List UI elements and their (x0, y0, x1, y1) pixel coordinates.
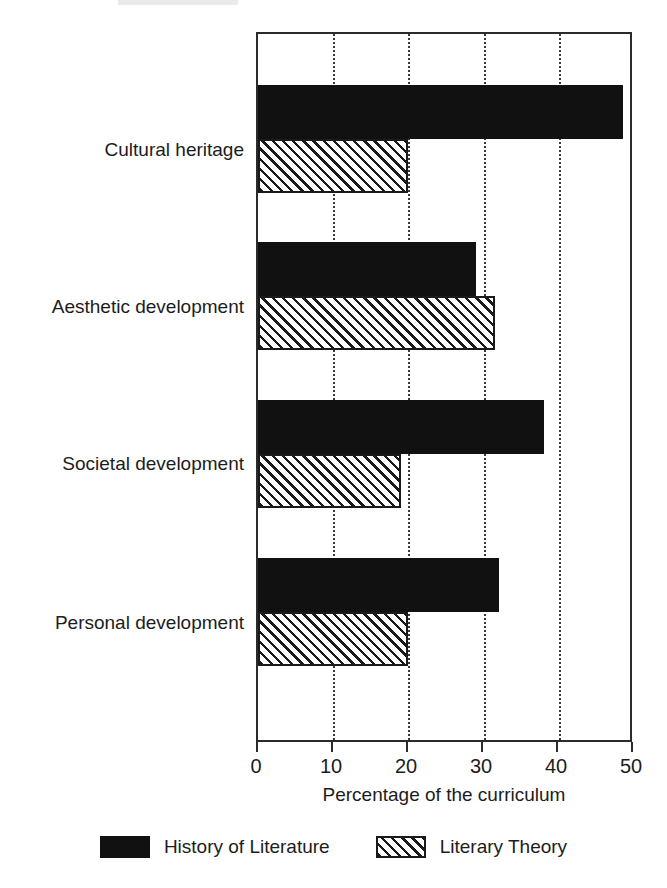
category-label-societal-development: Societal development (0, 453, 244, 475)
tick-mark-10 (331, 742, 333, 752)
tick-mark-20 (406, 742, 408, 752)
tick-mark-30 (481, 742, 483, 752)
plot-area (256, 32, 632, 742)
tick-label-30: 30 (451, 754, 511, 778)
bar-history-personal-development (258, 558, 499, 612)
scan-artifact (118, 0, 238, 5)
tick-mark-0 (256, 742, 258, 752)
bar-chart-figure: Cultural heritage Aesthetic development … (0, 0, 667, 888)
legend-label-literary-theory: Literary Theory (440, 836, 567, 858)
bar-history-societal-development (258, 400, 544, 454)
x-axis-title: Percentage of the curriculum (256, 783, 632, 806)
tick-mark-50 (631, 742, 633, 752)
gridline-20 (408, 34, 410, 740)
legend-label-history-of-literature: History of Literature (164, 836, 330, 858)
bar-theory-cultural-heritage (258, 139, 408, 193)
solid-swatch-icon (100, 836, 150, 858)
tick-label-20: 20 (376, 754, 436, 778)
gridline-40 (559, 34, 561, 740)
hatched-swatch-icon (376, 836, 426, 858)
bar-theory-personal-development (258, 612, 408, 666)
bar-theory-aesthetic-development (258, 296, 495, 350)
chart-legend: History of Literature Literary Theory (0, 836, 667, 858)
legend-item-history-of-literature: History of Literature (100, 836, 330, 858)
bar-history-aesthetic-development (258, 242, 476, 296)
bar-history-cultural-heritage (258, 85, 623, 139)
tick-label-40: 40 (526, 754, 586, 778)
tick-label-0: 0 (226, 754, 286, 778)
legend-item-literary-theory: Literary Theory (376, 836, 567, 858)
gridline-30 (484, 34, 486, 740)
bar-theory-societal-development (258, 454, 401, 508)
tick-mark-40 (556, 742, 558, 752)
tick-label-50: 50 (601, 754, 661, 778)
category-label-personal-development: Personal development (0, 612, 244, 634)
tick-label-10: 10 (301, 754, 361, 778)
category-label-cultural-heritage: Cultural heritage (0, 139, 244, 161)
category-label-aesthetic-development: Aesthetic development (0, 296, 244, 318)
